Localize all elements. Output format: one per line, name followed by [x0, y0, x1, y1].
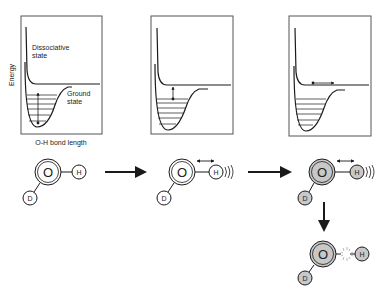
- svg-text:D: D: [161, 195, 166, 202]
- panel-frame: [151, 16, 233, 134]
- energy-panel-1: Energy Dissociative state Ground state O…: [8, 16, 102, 147]
- vibrational-levels: [296, 99, 326, 125]
- dissociative-label-line1: Dissociative: [32, 44, 69, 51]
- ground-state-curve: [294, 66, 345, 131]
- y-axis-label: Energy: [8, 63, 16, 86]
- energy-panel-3: [289, 16, 371, 136]
- svg-text:O: O: [43, 165, 53, 180]
- ground-label-line2: state: [67, 98, 82, 105]
- vibrational-levels: [27, 95, 57, 121]
- molecule-2-hod-vibrating: O H D: [157, 159, 233, 205]
- panel-frame: [21, 16, 102, 134]
- ground-state-curve: [25, 62, 72, 127]
- energy-panel-2: [151, 16, 233, 134]
- vibrational-levels: [157, 99, 188, 124]
- x-axis-label: O-H bond length: [35, 139, 86, 147]
- svg-text:O: O: [177, 165, 187, 180]
- svg-text:H: H: [213, 169, 218, 176]
- svg-text:H: H: [354, 169, 359, 176]
- molecule-1-hod: O H D: [23, 159, 86, 205]
- diagram-canvas: Energy Dissociative state Ground state O…: [0, 0, 384, 300]
- molecule-4-bond-broken: O H D: [298, 241, 369, 285]
- ground-label-line1: Ground: [67, 90, 90, 97]
- svg-text:H: H: [359, 251, 364, 258]
- dissociative-label-line2: state: [32, 52, 47, 59]
- svg-text:O: O: [317, 165, 327, 180]
- svg-text:H: H: [76, 169, 81, 176]
- panel-frame: [289, 16, 371, 136]
- dissociative-curve: [157, 28, 231, 85]
- dissociative-curve: [295, 28, 369, 85]
- svg-text:O: O: [318, 247, 328, 262]
- molecule-3-hod-excited: O H D: [298, 159, 374, 205]
- svg-text:D: D: [302, 275, 307, 282]
- vibration-waves-icon: [225, 165, 233, 179]
- svg-text:D: D: [302, 195, 307, 202]
- svg-text:D: D: [27, 195, 32, 202]
- vibration-waves-icon: [366, 165, 374, 179]
- ground-state-curve: [155, 64, 208, 130]
